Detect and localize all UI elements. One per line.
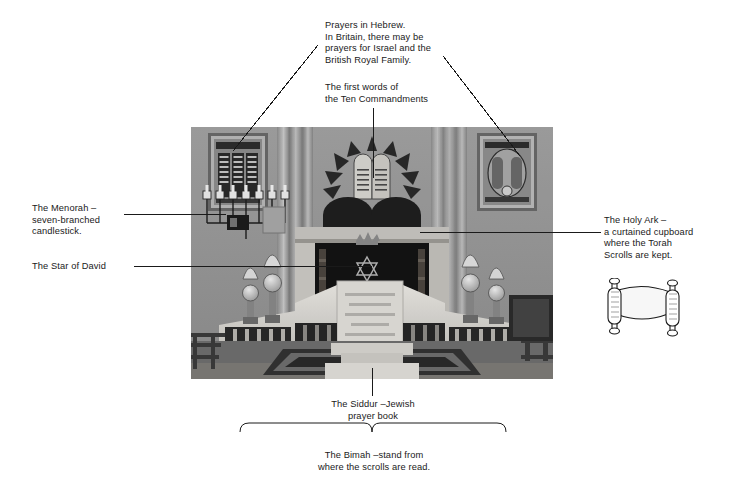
torah-scroll-icon: [600, 278, 688, 340]
annotation-prayers-in-hebrew: Prayers in Hebrew. In Britain, there may…: [325, 20, 431, 66]
annotation-holy-ark: The Holy Ark – a curtained cupboard wher…: [604, 215, 693, 261]
annotation-bimah: The Bimah –stand from where the scrolls …: [300, 450, 448, 473]
synagogue-photo-graphic: [191, 127, 553, 379]
annotation-menorah: The Menorah – seven-branched candlestick…: [32, 203, 100, 238]
bimah-brace: [240, 423, 506, 432]
annotation-siddur: The Siddur –Jewish prayer book: [310, 399, 436, 422]
diagram-canvas: Prayers in Hebrew. In Britain, there may…: [0, 0, 733, 488]
synagogue-interior-photo: [191, 127, 553, 379]
annotation-ten-commandments: The first words of the Ten Commandments: [325, 82, 428, 105]
annotation-star-of-david: The Star of David: [32, 261, 106, 273]
